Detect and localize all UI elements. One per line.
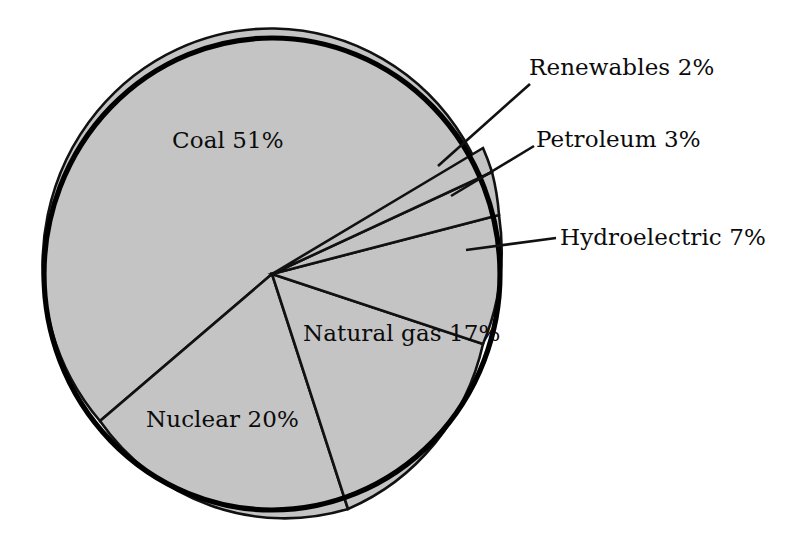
pie-label-hydroelectric: Hydroelectric 7% — [560, 226, 766, 249]
pie-chart-graphic — [0, 0, 790, 544]
pie-chart-figure: Coal 51% Nuclear 20% Natural gas 17% Ren… — [0, 0, 790, 544]
pie-label-petroleum: Petroleum 3% — [536, 128, 701, 151]
pie-label-coal: Coal 51% — [172, 129, 284, 152]
pie-label-renewables: Renewables 2% — [529, 56, 714, 79]
pie-label-nuclear: Nuclear 20% — [146, 408, 299, 431]
pie-label-natural-gas: Natural gas 17% — [303, 322, 500, 345]
